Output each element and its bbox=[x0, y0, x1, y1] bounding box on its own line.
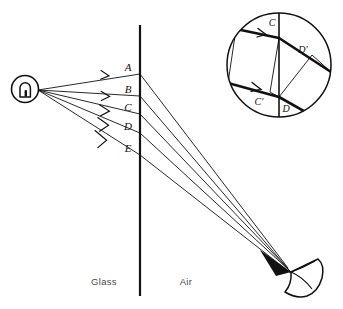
inset-label-d: D bbox=[281, 103, 290, 114]
arrowhead-ray-b bbox=[101, 91, 110, 100]
figure-canvas: A B C D E Glass Air bbox=[0, 0, 343, 309]
medium-label-air: Air bbox=[180, 276, 193, 287]
light-source-glyph-inner bbox=[25, 90, 27, 97]
refracted-ray-c bbox=[140, 114, 290, 271]
ray-label-c: C bbox=[124, 101, 132, 113]
inset-label-c: C bbox=[269, 17, 276, 28]
refracted-ray-e bbox=[140, 155, 292, 274]
refracted-ray-d bbox=[140, 133, 291, 272]
optics-refraction-figure: A B C D E Glass Air bbox=[0, 0, 343, 309]
light-source bbox=[12, 76, 39, 103]
observer-eye bbox=[260, 250, 323, 297]
inset-magnifier: C D′ C′ D bbox=[227, 11, 331, 119]
inset-label-d-prime: D′ bbox=[297, 44, 308, 55]
ray-label-b: B bbox=[125, 83, 132, 95]
arrowhead-ray-a bbox=[101, 71, 109, 80]
refracted-ray-b bbox=[140, 96, 289, 270]
medium-label-glass: Glass bbox=[91, 276, 117, 287]
eye-outline bbox=[285, 259, 323, 297]
ray-label-e: E bbox=[124, 142, 132, 154]
ray-label-a: A bbox=[124, 61, 132, 73]
inset-label-c-prime: C′ bbox=[255, 96, 265, 107]
ray-label-d: D bbox=[123, 120, 132, 132]
incident-arrowheads-group bbox=[95, 71, 110, 148]
